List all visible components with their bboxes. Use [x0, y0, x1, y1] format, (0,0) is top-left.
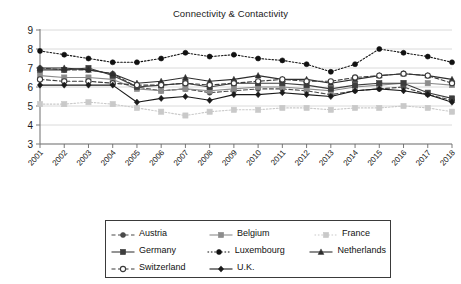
data-point-marker	[183, 86, 188, 91]
legend-item-luxembourg[interactable]: Luxembourg	[206, 241, 309, 258]
series-luxembourg	[38, 47, 455, 75]
data-point-marker	[425, 73, 430, 78]
legend-label: Luxembourg	[235, 244, 285, 256]
x-axis-tick-label: 2018	[438, 148, 457, 168]
data-point-marker	[328, 79, 333, 84]
legend-item-uk[interactable]: U.K.	[208, 258, 313, 275]
y-axis-tick-label: 4	[27, 120, 33, 131]
x-axis-tick-label: 2015	[366, 148, 385, 168]
legend-item-netherlands[interactable]: Netherlands	[308, 241, 386, 258]
data-point-marker	[218, 265, 223, 271]
chart-screenshot: Connectivity & Contactivity 345678920012…	[0, 0, 461, 284]
data-point-marker	[255, 73, 261, 79]
data-point-marker	[134, 83, 139, 88]
data-point-marker	[231, 52, 236, 57]
legend-label: Germany	[139, 244, 176, 256]
data-point-marker	[401, 81, 406, 86]
legend-label: Belgium	[237, 227, 270, 239]
legend-marker-icon	[110, 261, 136, 273]
legend-key-netherlands	[308, 246, 334, 258]
data-point-marker	[159, 88, 164, 93]
legend-marker-icon	[110, 244, 136, 256]
data-point-marker	[280, 105, 285, 110]
data-point-marker	[304, 79, 309, 84]
x-axis-tick-label: 2016	[390, 148, 409, 168]
data-point-marker	[304, 62, 309, 67]
data-point-marker	[256, 56, 261, 61]
y-axis-tick-label: 5	[27, 101, 33, 112]
series-line	[40, 68, 452, 98]
data-point-marker	[207, 83, 212, 88]
data-point-marker	[449, 109, 454, 114]
data-point-marker	[425, 54, 430, 59]
data-point-marker	[377, 81, 382, 86]
legend-row: SwitzerlandU.K.	[110, 258, 386, 275]
legend-item-germany[interactable]: Germany	[110, 241, 206, 258]
data-point-marker	[86, 56, 91, 61]
x-axis-tick-label: 2004	[99, 148, 118, 168]
data-point-marker	[120, 249, 125, 254]
series-line	[40, 68, 452, 83]
data-point-marker	[120, 266, 125, 271]
legend-item-austria[interactable]: Austria	[110, 224, 208, 241]
y-axis-tick-label: 3	[27, 139, 33, 150]
series-germany	[37, 65, 454, 101]
data-point-marker	[216, 249, 221, 254]
data-point-marker	[37, 102, 42, 107]
x-axis-tick-label: 2007	[172, 148, 191, 168]
chart-title: Connectivity & Contactivity	[0, 8, 461, 19]
x-axis-tick-label: 2006	[148, 148, 167, 168]
legend-marker-icon	[110, 227, 136, 239]
x-axis-tick-label: 2010	[245, 148, 264, 168]
data-point-marker	[401, 103, 406, 108]
data-point-marker	[207, 109, 212, 114]
line-chart-svg: 3456789200120022003200420052006200720082…	[0, 22, 461, 182]
data-point-marker	[450, 60, 455, 65]
x-axis-tick-label: 2011	[269, 148, 288, 167]
x-axis-tick-label: 2017	[414, 148, 433, 168]
chart-legend: AustriaBelgiumFranceGermanyLuxembourgNet…	[105, 220, 391, 278]
data-point-marker	[183, 93, 188, 99]
series-france	[37, 100, 454, 119]
data-point-marker	[158, 95, 163, 101]
y-axis-tick-label: 8	[27, 44, 33, 55]
data-point-marker	[231, 107, 236, 112]
data-point-marker	[280, 77, 285, 82]
data-point-marker	[62, 102, 67, 107]
plot-area: 3456789200120022003200420052006200720082…	[0, 22, 461, 182]
data-point-marker	[328, 69, 333, 74]
legend-label: Switzerland	[139, 261, 186, 273]
legend-item-france[interactable]: France	[313, 224, 370, 241]
legend-label: France	[342, 227, 370, 239]
legend-key-germany	[110, 246, 136, 258]
legend-item-belgium[interactable]: Belgium	[208, 224, 313, 241]
y-axis-tick-label: 9	[27, 25, 33, 36]
data-point-marker	[304, 105, 309, 110]
legend-label: Netherlands	[337, 244, 386, 256]
legend-marker-icon	[208, 227, 234, 239]
data-point-marker	[352, 83, 357, 88]
data-point-marker	[256, 79, 261, 84]
legend-label: Austria	[139, 227, 167, 239]
series-line	[40, 102, 452, 115]
data-point-marker	[256, 107, 261, 112]
data-point-marker	[231, 86, 236, 91]
legend-key-france	[313, 229, 339, 241]
legend-item-switzerland[interactable]: Switzerland	[110, 258, 208, 275]
series-uk	[37, 82, 454, 105]
data-point-marker	[377, 105, 382, 110]
data-point-marker	[183, 74, 189, 80]
data-point-marker	[183, 50, 188, 55]
data-point-marker	[352, 105, 357, 110]
legend-key-luxembourg	[206, 246, 232, 258]
data-point-marker	[159, 56, 164, 61]
data-point-marker	[377, 73, 382, 78]
legend-label: U.K.	[237, 261, 255, 273]
data-point-marker	[231, 81, 236, 86]
data-point-marker	[425, 105, 430, 110]
y-axis-tick-label: 7	[27, 63, 33, 74]
data-point-marker	[134, 105, 139, 110]
legend-key-belgium	[208, 229, 234, 241]
data-point-marker	[183, 113, 188, 118]
data-point-marker	[134, 60, 139, 65]
